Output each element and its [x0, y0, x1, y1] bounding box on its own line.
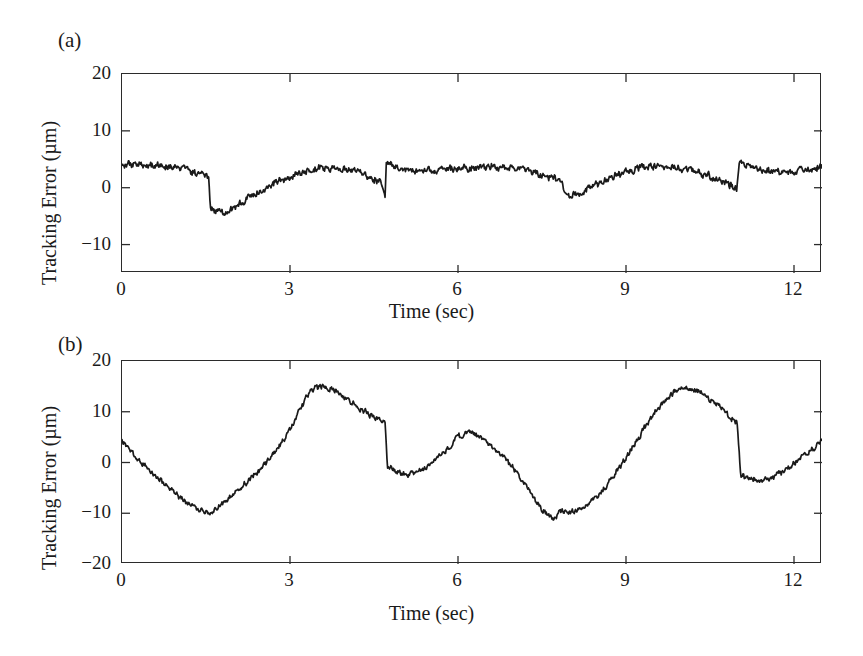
panel-a-y-tick-0: 20 — [59, 62, 111, 84]
panel-b-y-tick-1: 10 — [59, 400, 111, 422]
panel-b-x-axis-label: Time (sec) — [0, 602, 863, 625]
panel-b-y-tick-0: 20 — [59, 349, 111, 371]
panel-b-y-tick-3: −10 — [59, 501, 111, 523]
panel-a-y-tick-1: 10 — [59, 119, 111, 141]
panel-b-x-tick-4: 12 — [784, 569, 803, 591]
panel-a-plot-area — [121, 73, 821, 272]
panel-a: (a) Tracking Error (µm) Time (sec) 20100… — [0, 0, 863, 330]
panel-a-x-tick-1: 3 — [284, 278, 294, 300]
panel-b-y-tick-2: 0 — [59, 451, 111, 473]
figure-container: (a) Tracking Error (µm) Time (sec) 20100… — [0, 0, 863, 656]
panel-a-x-tick-4: 12 — [784, 278, 803, 300]
panel-b-y-tick-4: −20 — [59, 552, 111, 574]
panel-a-x-tick-0: 0 — [116, 278, 126, 300]
panel-b-x-tick-2: 6 — [452, 569, 462, 591]
panel-b-plot-area — [121, 360, 821, 563]
panel-a-y-tick-3: −10 — [59, 233, 111, 255]
panel-b-y-axis-label: Tracking Error (µm) — [38, 406, 61, 570]
panel-a-y-axis-label: Tracking Error (µm) — [38, 121, 61, 285]
panel-b-x-tick-0: 0 — [116, 569, 126, 591]
panel-a-x-tick-3: 9 — [620, 278, 630, 300]
panel-b: (b) Tracking Error (µm) Time (sec) 20100… — [0, 320, 863, 656]
panel-b-data-line — [122, 361, 822, 564]
panel-a-tag: (a) — [58, 28, 81, 53]
panel-b-x-tick-3: 9 — [620, 569, 630, 591]
panel-a-x-tick-2: 6 — [452, 278, 462, 300]
panel-a-y-tick-2: 0 — [59, 176, 111, 198]
panel-b-x-tick-1: 3 — [284, 569, 294, 591]
panel-a-data-line — [122, 74, 822, 273]
